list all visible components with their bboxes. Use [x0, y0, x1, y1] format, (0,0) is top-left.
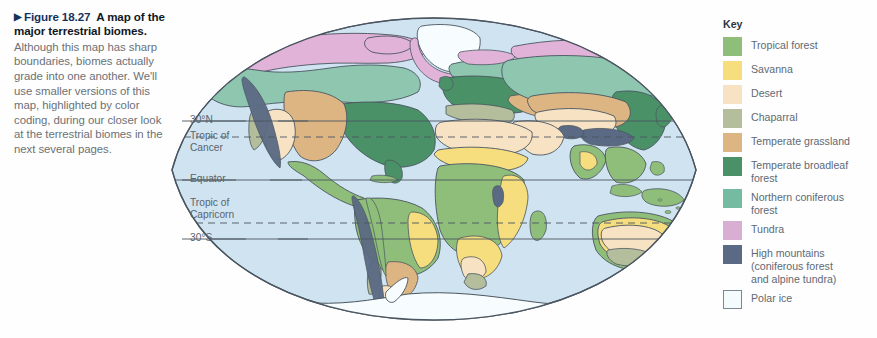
key-item-label: Temperate broadleaf forest [751, 157, 848, 184]
key-swatch [723, 290, 742, 309]
key-swatch [723, 133, 742, 152]
key-swatch [723, 37, 742, 56]
key-item: Savanna [723, 61, 871, 80]
label-lat-30s: 30°S [190, 232, 212, 243]
key-item-label: Northern coniferous forest [751, 189, 844, 216]
key-item-label: Tropical forest [751, 37, 818, 52]
key-item-label: Savanna [751, 61, 793, 76]
key-item-label: Chaparral [751, 109, 798, 124]
key-item: Desert [723, 85, 871, 104]
figure-page: ▶Figure 18.27 A map of the major terrest… [0, 0, 877, 338]
key-item: Chaparral [723, 109, 871, 128]
figure-caption-title: ▶Figure 18.27 A map of the major terrest… [14, 10, 166, 39]
label-tropic-of-cancer: Tropic of Cancer [190, 130, 229, 154]
key-item: Temperate grassland [723, 133, 871, 152]
key-item-label: Tundra [751, 221, 784, 236]
biome-tundra-alaska [190, 58, 232, 82]
key-item: High mountains (coniferous forest and al… [723, 245, 871, 285]
triangle-marker-icon: ▶ [14, 11, 22, 22]
islands-british-isles [439, 76, 453, 90]
figure-caption-body: Although this map has sharp boundaries, … [14, 40, 166, 157]
key-swatch [723, 109, 742, 128]
key-item: Tropical forest [723, 37, 871, 56]
map-key: Key Tropical forestSavannaDesertChaparra… [723, 18, 871, 314]
biome-polar-ice-antarctica [160, 293, 708, 322]
label-equator: Equator [190, 173, 226, 184]
key-item-label: High mountains (coniferous forest and al… [751, 245, 836, 285]
figure-caption: ▶Figure 18.27 A map of the major terrest… [14, 10, 166, 157]
key-item: Northern coniferous forest [723, 189, 871, 216]
key-item-label: Polar ice [751, 290, 792, 305]
key-swatch [723, 85, 742, 104]
key-item: Temperate broadleaf forest [723, 157, 871, 184]
key-item: Tundra [723, 221, 871, 240]
key-swatch [723, 61, 742, 80]
key-swatch [723, 221, 742, 240]
key-swatch [723, 157, 742, 176]
islands-philippines [650, 161, 664, 175]
key-item-label: Temperate grassland [751, 133, 850, 148]
biome-mountains-ethiopia [493, 186, 504, 207]
island-tasmania [644, 275, 655, 285]
key-item-label: Desert [751, 85, 782, 100]
key-swatch [723, 245, 742, 264]
key-title: Key [723, 18, 871, 30]
key-item-list: Tropical forestSavannaDesertChaparralTem… [723, 37, 871, 309]
island-new-zealand [701, 279, 708, 299]
label-tropic-of-capricorn: Tropic of Capricorn [190, 197, 234, 221]
key-swatch [723, 189, 742, 208]
key-item: Polar ice [723, 290, 871, 309]
figure-number: Figure 18.27 [24, 10, 90, 23]
arctic-dotted-trace [168, 64, 208, 76]
world-biome-map: 30°N Tropic of Cancer Equator Tropic of … [160, 0, 708, 338]
label-lat-30n: 30°N [190, 114, 213, 125]
